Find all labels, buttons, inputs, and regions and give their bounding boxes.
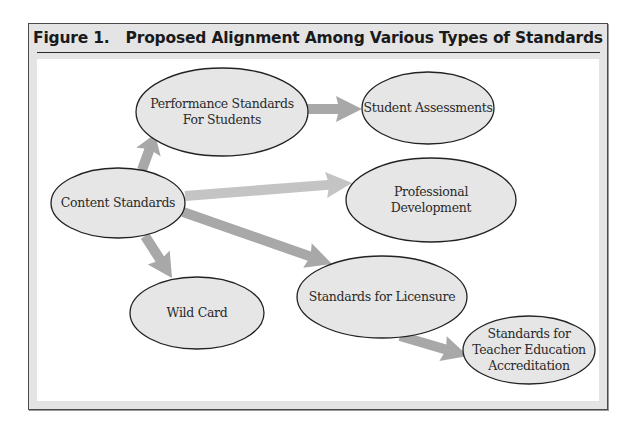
node-label-licensure: Standards for Licensure (309, 289, 456, 305)
node-label-line: Wild Card (167, 305, 228, 321)
node-label-line: Standards for Licensure (309, 289, 456, 305)
node-label-line: Student Assessments (363, 100, 492, 116)
node-label-line: Content Standards (61, 195, 175, 211)
node-label-line: Professional (391, 184, 471, 200)
node-label-professional: ProfessionalDevelopment (391, 184, 471, 216)
arrow-performance-to-assessments (306, 96, 362, 122)
node-label-accreditation: Standards forTeacher EducationAccreditat… (472, 326, 586, 374)
node-label-content: Content Standards (61, 195, 175, 211)
arrow-content-to-licensure (181, 207, 332, 267)
node-label-line: Teacher Education (472, 342, 586, 358)
node-label-line: Performance Standards (150, 96, 294, 112)
node-label-line: For Students (150, 112, 294, 128)
node-label-line: Accreditation (472, 358, 586, 374)
node-label-assessments: Student Assessments (363, 100, 492, 116)
node-label-performance: Performance StandardsFor Students (150, 96, 294, 128)
node-label-wildcard: Wild Card (167, 305, 228, 321)
node-label-line: Standards for (472, 326, 586, 342)
arrow-content-to-professional (185, 172, 352, 201)
arrow-content-to-wildcard (141, 233, 172, 278)
node-label-line: Development (391, 200, 471, 216)
